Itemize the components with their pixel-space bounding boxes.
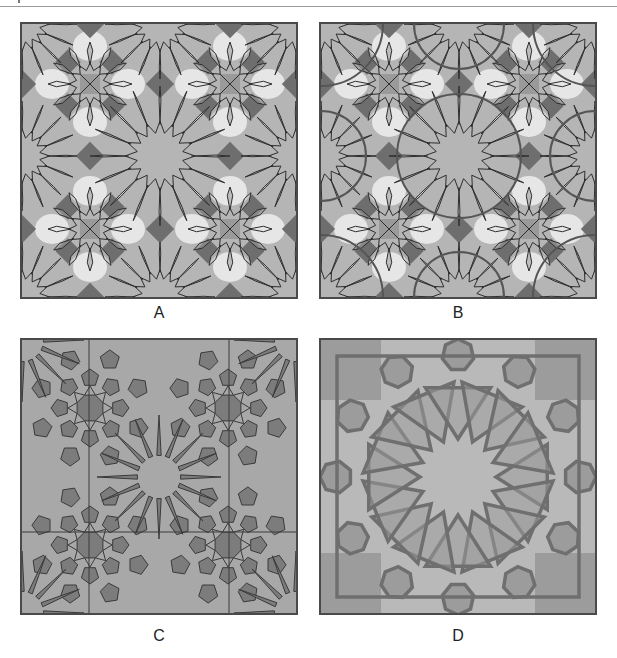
panel-c-label: C <box>20 627 298 645</box>
panel-b-label: B <box>319 304 597 322</box>
panel-d-pattern <box>319 338 597 615</box>
panel-c-pattern <box>20 338 298 615</box>
top-mark <box>18 0 20 3</box>
panel-a-pattern <box>20 22 298 299</box>
top-rule <box>0 6 617 7</box>
panel-a-label: A <box>20 304 298 322</box>
panel-b-pattern <box>319 22 597 299</box>
panel-d-label: D <box>319 627 597 645</box>
